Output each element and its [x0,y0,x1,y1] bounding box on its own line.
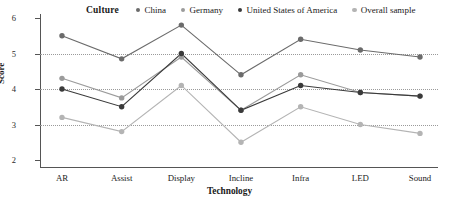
x-axis-line [40,167,438,168]
line-chart: Culture China Germany United States of A… [0,0,459,206]
x-axis-title: Technology [0,186,459,196]
y-tick-label-4: 4 [0,84,16,94]
x-tick-label-infra: Infra [271,173,331,183]
y-tick-mark-3 [35,125,40,126]
gridline-4 [40,89,438,90]
x-tick-label-assist: Assist [92,173,152,183]
x-tick-label-led: LED [330,173,390,183]
y-tick-label-6: 6 [0,13,16,23]
legend-marker-overall-sample [352,8,357,13]
legend-marker-china [136,8,141,13]
y-tick-label-2: 2 [0,155,16,165]
y-axis-title: Score [0,63,6,84]
y-tick-label-3: 3 [0,120,16,130]
y-tick-mark-2 [35,160,40,161]
y-tick-mark-5 [35,54,40,55]
y-tick-mark-6 [35,18,40,19]
gridline-3 [40,125,438,126]
y-tick-mark-4 [35,89,40,90]
legend-marker-germany [181,8,186,13]
gridline-5 [40,54,438,55]
x-tick-label-sound: Sound [390,173,450,183]
plot-area: 65432 [40,14,438,166]
x-tick-label-incline: Incline [211,173,271,183]
x-tick-label-display: Display [151,173,211,183]
y-tick-label-5: 5 [0,49,16,59]
legend-marker-united-states-of-america [238,8,243,13]
x-tick-label-ar: AR [32,173,92,183]
